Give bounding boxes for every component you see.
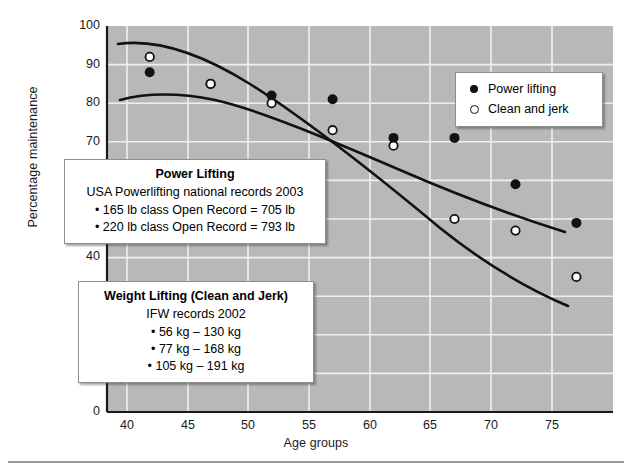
callout-power-list: 165 lb class Open Record = 705 lb 220 lb…: [77, 203, 313, 234]
open-circle-icon: [466, 105, 482, 114]
callout-power-item-2: 220 lb class Open Record = 793 lb: [77, 220, 313, 234]
legend-label-power-lifting: Power lifting: [488, 82, 556, 96]
chart-figure: 100 90 80 70 60 50 40 30 20 10 0 40 45 5…: [0, 0, 632, 471]
callout-power-subtitle: USA Powerlifting national records 2003: [77, 185, 313, 199]
y-tick-70: 70: [68, 134, 100, 148]
y-tick-90: 90: [68, 57, 100, 71]
x-tick-45: 45: [168, 418, 208, 432]
x-tick-55: 55: [289, 418, 329, 432]
x-axis-title: Age groups: [0, 436, 632, 450]
callout-power-title: Power Lifting: [77, 167, 313, 181]
legend-item-clean-and-jerk: Clean and jerk: [466, 99, 594, 119]
callout-weight-item-2: 77 kg – 168 kg: [91, 342, 301, 356]
callout-weight-lifting: Weight Lifting (Clean and Jerk) IFW reco…: [78, 281, 314, 383]
y-tick-100: 100: [68, 18, 100, 32]
callout-power-item-1: 165 lb class Open Record = 705 lb: [77, 203, 313, 217]
bottom-divider: [8, 461, 624, 463]
x-tick-40: 40: [107, 418, 147, 432]
y-axis-title: Percentage maintenance: [26, 62, 40, 252]
legend-item-power-lifting: Power lifting: [466, 79, 594, 99]
callout-weight-list: 56 kg – 130 kg 77 kg – 168 kg 105 kg – 1…: [91, 325, 301, 373]
y-tick-40: 40: [68, 249, 100, 263]
callout-weight-item-1: 56 kg – 130 kg: [91, 325, 301, 339]
callout-weight-subtitle: IFW records 2002: [91, 307, 301, 321]
x-tick-75: 75: [532, 418, 572, 432]
x-tick-70: 70: [471, 418, 511, 432]
legend-label-clean-and-jerk: Clean and jerk: [488, 102, 569, 116]
x-tick-60: 60: [350, 418, 390, 432]
callout-power-lifting: Power Lifting USA Powerlifting national …: [64, 159, 326, 244]
y-tick-0: 0: [68, 404, 100, 418]
chart-legend: Power lifting Clean and jerk: [455, 72, 603, 127]
x-tick-65: 65: [410, 418, 450, 432]
callout-weight-title: Weight Lifting (Clean and Jerk): [91, 289, 301, 303]
callout-weight-item-3: 105 kg – 191 kg: [91, 359, 301, 373]
filled-circle-icon: [466, 85, 482, 93]
y-tick-80: 80: [68, 95, 100, 109]
x-tick-50: 50: [228, 418, 268, 432]
